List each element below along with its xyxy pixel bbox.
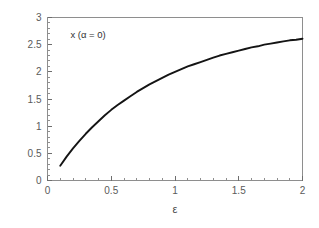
y-tick-label: 1.5	[28, 94, 42, 105]
y-tick-label: 0.5	[28, 148, 42, 159]
x-tick-label: 1	[172, 185, 178, 196]
y-tick-label: 0	[36, 175, 42, 186]
chart-figure: 00.511.52 00.511.522.53 x (α = 0) ε	[0, 0, 319, 228]
x-tick-label: 2	[300, 185, 306, 196]
x-tick-label: 0	[45, 185, 51, 196]
plot-annotations: x (α = 0)	[70, 29, 105, 40]
y-tick-label: 2	[36, 66, 42, 77]
y-tick-label: 1	[36, 121, 42, 132]
x-tick-label: 1.5	[232, 185, 246, 196]
x-axis-title: ε	[173, 203, 178, 215]
x-tick-label: 0.5	[104, 185, 118, 196]
chart-canvas: 00.511.52 00.511.522.53 x (α = 0) ε	[0, 0, 319, 228]
y-tick-label: 2.5	[28, 39, 42, 50]
curve-annotation-label: x (α = 0)	[70, 29, 105, 40]
y-tick-label: 3	[36, 12, 42, 23]
